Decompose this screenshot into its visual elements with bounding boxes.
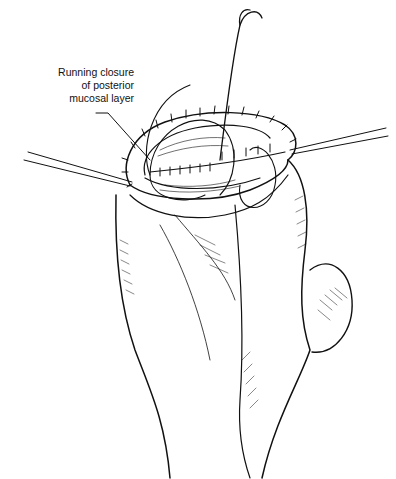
suture-needle bbox=[220, 12, 262, 160]
surgical-illustration bbox=[0, 0, 396, 479]
